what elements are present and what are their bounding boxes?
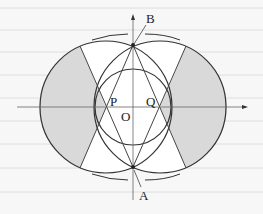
y-axis-arrow-icon: [131, 14, 135, 20]
label-P: P: [110, 94, 117, 109]
point-A: [131, 165, 135, 169]
leader-B: [134, 25, 146, 44]
label-Q: Q: [146, 94, 156, 109]
x-axis-arrow-icon: [242, 105, 248, 109]
label-O: O: [121, 109, 130, 124]
outer-arc-bottom-right: [145, 174, 180, 180]
label-B: B: [146, 11, 155, 26]
outer-arc-bottom-left: [92, 174, 128, 180]
geometry-diagram: B A P Q O: [0, 0, 263, 214]
lined-paper-background: B A P Q O: [0, 0, 263, 214]
outer-arc-top-right: [145, 34, 180, 40]
label-A: A: [139, 188, 149, 203]
outer-arc-top-left: [92, 34, 128, 40]
leader-A: [134, 170, 141, 187]
